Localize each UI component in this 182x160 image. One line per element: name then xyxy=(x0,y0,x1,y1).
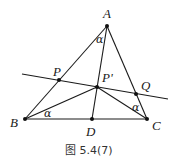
angle-label-b: α xyxy=(44,107,52,120)
figure-caption: 图 5.4(7) xyxy=(65,144,113,157)
point-b xyxy=(23,117,27,121)
label-b: B xyxy=(10,115,18,130)
point-a xyxy=(105,24,109,28)
label-c: C xyxy=(152,118,161,133)
point-q xyxy=(134,92,138,96)
point-p-prime xyxy=(95,85,99,89)
segment-cp-prime xyxy=(97,87,147,119)
segment-ac xyxy=(107,26,147,119)
angle-label-c: α xyxy=(132,101,140,114)
label-a: A xyxy=(102,6,111,21)
point-d xyxy=(90,117,94,121)
segment-bp-prime xyxy=(25,87,97,119)
label-q: Q xyxy=(141,78,151,93)
label-d: D xyxy=(85,124,96,139)
label-p-prime: P' xyxy=(101,70,113,85)
angle-label-a: α xyxy=(96,33,104,46)
geometry-figure: A B C D P' P Q α α α 图 5.4(7) xyxy=(0,0,182,160)
point-c xyxy=(145,117,149,121)
label-p: P xyxy=(52,64,61,79)
